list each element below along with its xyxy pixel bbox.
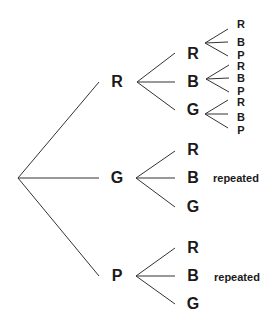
node-R: R bbox=[111, 74, 123, 90]
node-RBB: B bbox=[237, 73, 245, 84]
node-RB: B bbox=[187, 74, 199, 90]
repeated-note-p: repeated bbox=[214, 272, 260, 283]
node-RRR: R bbox=[237, 19, 245, 30]
node-PG: G bbox=[187, 296, 199, 312]
node-RGB: B bbox=[237, 112, 245, 123]
node-RGP: P bbox=[237, 125, 244, 136]
node-P: P bbox=[112, 268, 123, 284]
node-RRB: B bbox=[237, 37, 245, 48]
node-PR: R bbox=[187, 240, 199, 256]
node-G: G bbox=[111, 170, 123, 186]
node-RR: R bbox=[187, 46, 199, 62]
node-PB: B bbox=[187, 268, 199, 284]
node-RBR: R bbox=[237, 61, 245, 72]
node-RG: G bbox=[187, 102, 199, 118]
repeated-note-g: repeated bbox=[213, 173, 259, 184]
node-GB: B bbox=[187, 170, 199, 186]
node-GR: R bbox=[187, 142, 199, 158]
node-RGR: R bbox=[237, 97, 245, 108]
node-GG: G bbox=[187, 199, 199, 215]
